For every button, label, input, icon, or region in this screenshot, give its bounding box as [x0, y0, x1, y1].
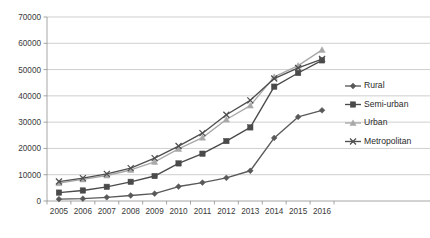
x-axis-tick-label: 2014 [265, 207, 284, 216]
x-axis-tick-labels: 2005200620072008200920102011201220132014… [50, 207, 332, 216]
x-axis-tick-label: 2007 [98, 207, 117, 216]
data-point-marker [272, 84, 277, 89]
y-axis-tick-label: 30000 [18, 118, 41, 127]
y-axis-tick-labels: 010000200003000040000500006000070000 [18, 13, 41, 206]
x-axis-tick-label: 2016 [313, 207, 332, 216]
x-axis-tick-label: 2005 [50, 207, 69, 216]
legend-entry-metropolitan[interactable]: Metropolitan [345, 136, 412, 146]
series-line [59, 110, 322, 199]
legend-label: Rural [364, 80, 385, 90]
data-point-marker [223, 175, 229, 181]
data-point-marker [350, 83, 356, 89]
data-point-marker [56, 190, 61, 195]
y-axis-tick-label: 50000 [18, 66, 41, 75]
y-axis-tick-label: 0 [36, 197, 41, 206]
chart-legend: RuralSemi-urbanUrbanMetropolitan [345, 80, 412, 146]
line-chart: 010000200003000040000500006000070000 200… [0, 0, 430, 238]
legend-label: Metropolitan [364, 136, 412, 146]
data-point-marker [224, 138, 229, 143]
data-point-marker [152, 191, 158, 197]
chart-canvas: 010000200003000040000500006000070000 200… [0, 0, 430, 238]
x-axis-tick-label: 2012 [217, 207, 236, 216]
series-urban [56, 47, 325, 186]
data-point-marker [152, 173, 157, 178]
legend-entry-semi-urban[interactable]: Semi-urban [345, 99, 409, 109]
data-point-marker [350, 102, 355, 107]
data-point-marker [295, 70, 300, 75]
series-metropolitan [56, 56, 325, 184]
x-axis-tick-label: 2006 [74, 207, 93, 216]
data-point-marker [104, 194, 110, 200]
data-point-marker [128, 179, 133, 184]
y-axis-tick-label: 10000 [18, 171, 41, 180]
data-point-marker [176, 161, 181, 166]
legend-label: Urban [364, 117, 388, 127]
x-axis-tick-label: 2010 [169, 207, 188, 216]
gridlines [47, 17, 430, 175]
data-point-marker [200, 151, 205, 156]
x-axis-tick-label: 2015 [289, 207, 308, 216]
legend-label: Semi-urban [364, 99, 409, 109]
data-point-marker [319, 107, 325, 113]
data-point-marker [104, 184, 109, 189]
y-axis-tick-label: 60000 [18, 39, 41, 48]
x-axis-tick-label: 2013 [241, 207, 260, 216]
x-axis-tick-label: 2009 [146, 207, 165, 216]
series-line [59, 59, 322, 181]
data-point-marker [248, 125, 253, 130]
series-line [59, 60, 322, 192]
data-series-layer [56, 47, 325, 202]
x-axis-tick-label: 2011 [194, 207, 212, 216]
y-axis-tick-label: 70000 [18, 13, 41, 22]
legend-entry-rural[interactable]: Rural [345, 80, 385, 90]
data-point-marker [319, 47, 325, 53]
data-point-marker [128, 193, 134, 199]
y-axis-tick-label: 20000 [18, 144, 41, 153]
data-point-marker [80, 188, 85, 193]
y-axis-tick-label: 40000 [18, 92, 41, 101]
data-point-marker [200, 180, 206, 186]
data-point-marker [176, 184, 182, 190]
x-axis-tick-label: 2008 [122, 207, 141, 216]
